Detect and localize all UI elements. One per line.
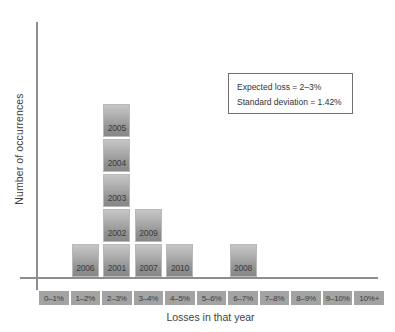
bar-segment-label: 2004 xyxy=(104,158,129,168)
bar-segment-label: 2007 xyxy=(136,263,161,273)
y-axis-title: Number of occurrences xyxy=(13,74,25,224)
x-tick-label-7: 6–7% xyxy=(228,291,258,305)
bar-segment-label: 2001 xyxy=(104,263,129,273)
bar-segment: 2007 xyxy=(135,244,162,277)
standard-deviation-text: Standard deviation = 1.42% xyxy=(237,95,352,110)
bar-segment-label: 2006 xyxy=(73,263,98,273)
expected-loss-text: Expected loss = 2–3% xyxy=(237,80,352,95)
plot-area: 2006200120022003200420052007200920102008 xyxy=(38,22,385,277)
x-tick-label-2: 1–2% xyxy=(71,291,101,305)
bar-segment: 2008 xyxy=(230,244,257,277)
bar-segment-label: 2009 xyxy=(136,228,161,238)
bar-segment-label: 2005 xyxy=(104,123,129,133)
histogram-chart: Number of occurrences Losses in that yea… xyxy=(0,0,395,332)
bar-segment: 2006 xyxy=(72,244,99,277)
x-tick-label-8: 7–8% xyxy=(260,291,290,305)
bar-segment-label: 2003 xyxy=(104,193,129,203)
bar-segment: 2003 xyxy=(103,174,130,207)
bar-column-3–4%: 20072009 xyxy=(135,207,162,277)
x-tick-label-6: 5–6% xyxy=(197,291,227,305)
bar-column-2–3%: 20012002200320042005 xyxy=(103,102,130,277)
bar-segment: 2001 xyxy=(103,244,130,277)
bar-segment: 2002 xyxy=(103,209,130,242)
x-tick-label-5: 4–5% xyxy=(165,291,195,305)
bar-column-1–2%: 2006 xyxy=(72,242,99,277)
x-axis-tick-labels: 0–1%1–2%2–3%3–4%4–5%5–6%6–7%7–8%8–9%9–10… xyxy=(38,291,385,305)
x-tick-label-11: 10%+ xyxy=(354,291,384,305)
x-tick-label-1: 0–1% xyxy=(39,291,69,305)
bar-segment: 2009 xyxy=(135,209,162,242)
x-tick-label-9: 8–9% xyxy=(291,291,321,305)
bar-segment-label: 2008 xyxy=(231,263,256,273)
x-tick-label-4: 3–4% xyxy=(134,291,164,305)
x-tick-label-3: 2–3% xyxy=(102,291,132,305)
bar-column-4–5%: 2010 xyxy=(166,242,193,277)
bar-segment: 2010 xyxy=(166,244,193,277)
bar-segment-label: 2010 xyxy=(167,263,192,273)
statistics-annotation-box: Expected loss = 2–3% Standard deviation … xyxy=(228,73,353,114)
x-axis-line xyxy=(20,277,378,279)
bar-column-6–7%: 2008 xyxy=(230,242,257,277)
bar-segment: 2004 xyxy=(103,139,130,172)
x-axis-title: Losses in that year xyxy=(36,311,385,323)
bar-segment: 2005 xyxy=(103,104,130,137)
bar-segment-label: 2002 xyxy=(104,228,129,238)
x-tick-label-10: 9–10% xyxy=(323,291,353,305)
